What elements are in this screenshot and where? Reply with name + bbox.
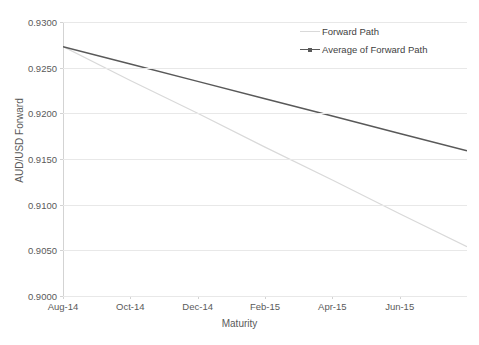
gridline-y-6 xyxy=(63,296,467,297)
series-line-0 xyxy=(63,47,467,247)
gridline-y-1 xyxy=(63,68,467,69)
x-tick-label-3: Feb-15 xyxy=(250,301,280,312)
legend-item-1[interactable]: Average of Forward Path xyxy=(300,44,427,55)
chart-screenshot: 0.93000.92500.92000.91500.91000.90500.90… xyxy=(0,0,479,345)
gridline-y-3 xyxy=(63,159,467,160)
x-tick-label-5: Jun-15 xyxy=(385,301,414,312)
legend-swatch-icon xyxy=(300,27,320,37)
y-axis-tick-labels: 0.93000.92500.92000.91500.91000.90500.90… xyxy=(0,0,57,345)
legend-line-glyph xyxy=(300,31,320,32)
y-tick-label-6: 0.9000 xyxy=(3,291,57,302)
legend-label: Average of Forward Path xyxy=(322,44,427,55)
y-tick-label-5: 0.9050 xyxy=(3,245,57,256)
x-tick-label-0: Aug-14 xyxy=(48,301,79,312)
y-tick-label-0: 0.9300 xyxy=(3,17,57,28)
x-tick-label-2: Dec-14 xyxy=(182,301,213,312)
y-tick-label-2: 0.9200 xyxy=(3,108,57,119)
y-tick-label-1: 0.9250 xyxy=(3,62,57,73)
y-tick-label-4: 0.9100 xyxy=(3,199,57,210)
x-tick-label-1: Oct-14 xyxy=(116,301,145,312)
gridline-y-4 xyxy=(63,205,467,206)
y-tick-label-3: 0.9150 xyxy=(3,154,57,165)
legend-swatch-icon xyxy=(300,45,320,55)
x-axis-title: Maturity xyxy=(0,318,479,329)
legend-marker-glyph xyxy=(308,48,312,52)
gridline-y-5 xyxy=(63,250,467,251)
series-line-1 xyxy=(63,47,467,151)
y-axis-title: AUD/USD Forward xyxy=(14,71,25,211)
gridline-y-2 xyxy=(63,113,467,114)
x-tick-label-4: Apr-15 xyxy=(318,301,347,312)
chart-legend: Forward PathAverage of Forward Path xyxy=(300,26,427,55)
plot-area xyxy=(63,22,467,296)
legend-item-0[interactable]: Forward Path xyxy=(300,26,427,37)
legend-label: Forward Path xyxy=(322,26,379,37)
gridline-y-0 xyxy=(63,22,467,23)
